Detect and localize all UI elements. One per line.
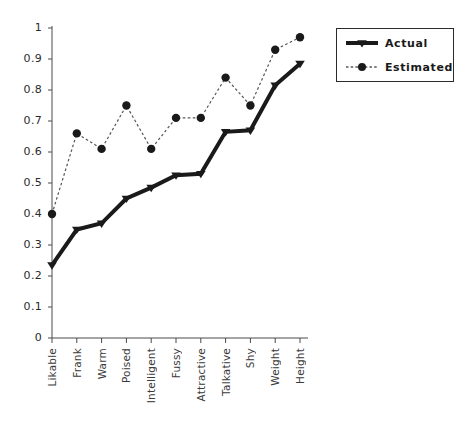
data-point-estimated: [97, 145, 105, 153]
x-axis-tick-label: Likable: [46, 348, 58, 387]
x-axis-tick-label: Frank: [71, 348, 83, 378]
x-axis-tick-label: Shy: [244, 348, 256, 368]
x-axis-tick-label: Height: [294, 348, 306, 384]
chart-canvas: 10.90.80.70.60.50.40.30.20.10 LikableFra…: [0, 0, 466, 436]
data-point-estimated: [122, 101, 130, 109]
x-axis-tick-label: Talkative: [220, 348, 232, 396]
legend: Actual Estimated: [336, 28, 454, 82]
legend-label-actual: Actual: [385, 37, 428, 50]
x-axis-tick-label: Warm: [96, 348, 108, 379]
data-point-estimated: [197, 114, 205, 122]
legend-item-actual: Actual: [345, 36, 428, 50]
series-line-estimated: [52, 37, 300, 214]
legend-swatch-actual: [345, 36, 379, 50]
data-point-estimated: [296, 33, 304, 41]
data-point-estimated: [172, 114, 180, 122]
x-axis-tick-label: Weight: [269, 348, 281, 386]
legend-label-estimated: Estimated: [385, 61, 453, 74]
x-axis-tick-label: Fussy: [170, 348, 182, 378]
data-point-estimated: [221, 73, 229, 81]
x-axis-tick-label: Poised: [120, 348, 132, 383]
data-point-estimated: [147, 145, 155, 153]
series-line-actual: [52, 64, 300, 266]
data-point-estimated: [48, 210, 56, 218]
data-point-estimated: [246, 101, 254, 109]
data-point-estimated: [73, 129, 81, 137]
data-point-actual: [47, 262, 57, 269]
legend-item-estimated: Estimated: [345, 60, 453, 74]
x-axis-tick-label: Attractive: [195, 348, 207, 401]
legend-swatch-estimated: [345, 60, 379, 74]
data-point-estimated: [271, 46, 279, 54]
x-axis-tick-label: Intelligent: [145, 348, 157, 403]
